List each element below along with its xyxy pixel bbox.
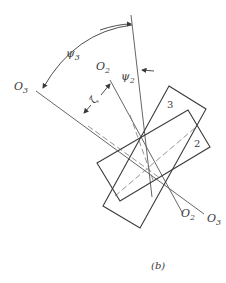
label-rect3: 3: [167, 99, 173, 110]
o3-axis-line: [36, 91, 204, 214]
psi3-arc-end: [100, 24, 131, 30]
psi3-arc: [43, 25, 132, 88]
label-psi2: ψ2: [121, 70, 135, 85]
zeta-arrow-bottom: [84, 105, 91, 113]
zeta-arrow-top: [101, 84, 110, 95]
label-o3-left: O3: [14, 80, 28, 95]
label-zeta: ζ: [87, 94, 100, 105]
label-o2-top: O2: [96, 60, 110, 75]
label-o2-bottom: O2: [181, 207, 195, 222]
link-3-rectangle: [103, 86, 206, 228]
figure-caption: (b): [151, 260, 165, 271]
label-rect2: 2: [194, 138, 200, 149]
label-psi3: ψ3: [66, 47, 80, 62]
dashed-line-o2: [130, 115, 153, 180]
label-o3-right: O3: [207, 212, 221, 227]
psi2-arrow: [142, 70, 154, 71]
mechanism-diagram: O3 O2 ψ3 ψ2 ζ 3 2 O3 O2 (b): [0, 0, 226, 283]
link-2-rectangle: [97, 110, 210, 201]
